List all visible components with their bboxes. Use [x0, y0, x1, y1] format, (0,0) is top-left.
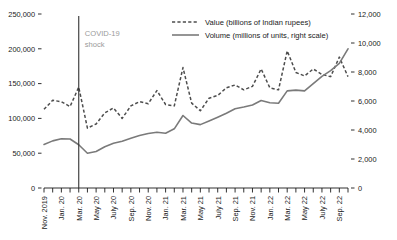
- chart-container: 050,000100,000150,000200,000250,00002,00…: [0, 0, 397, 240]
- x-axis-label-8: Mar. 21: [179, 196, 188, 221]
- x-axis-label-15: May 22: [300, 196, 309, 220]
- x-axis-label-6: Nov. 20: [144, 196, 153, 221]
- left-axis-tick-3: 150,000: [8, 79, 35, 88]
- x-axis-label-11: Sep. 21: [231, 196, 240, 221]
- x-axis-label-9: May 21: [196, 196, 205, 220]
- x-axis-label-5: Sep. 20: [127, 196, 136, 221]
- x-axis-label-1: Jan. 20: [57, 196, 66, 220]
- legend-label-1: Volume (millions of units, right scale): [205, 31, 329, 40]
- x-axis-label-3: May 20: [92, 196, 101, 220]
- right-axis-tick-0: 0: [358, 184, 362, 193]
- x-axis-label-13: Jan. 22: [266, 196, 275, 220]
- x-axis-label-14: Mar. 22: [283, 196, 292, 221]
- right-axis-tick-3: 6,000: [358, 97, 377, 106]
- series-line-volume: [44, 49, 348, 153]
- x-axis-label-12: Nov. 21: [248, 196, 257, 221]
- right-axis-tick-4: 8,000: [358, 68, 377, 77]
- left-axis-tick-1: 50,000: [12, 149, 35, 158]
- left-axis-tick-0: 0: [31, 184, 35, 193]
- dual-axis-line-chart: 050,000100,000150,000200,000250,00002,00…: [0, 0, 397, 240]
- legend-label-0: Value (billions of Indian rupees): [205, 18, 311, 27]
- left-axis-tick-5: 250,000: [8, 10, 35, 19]
- right-axis-tick-1: 2,000: [358, 155, 377, 164]
- left-axis-tick-4: 200,000: [8, 45, 35, 54]
- right-axis-tick-2: 4,000: [358, 126, 377, 135]
- right-axis-tick-6: 12,000: [358, 10, 381, 19]
- annotation-label-line2: shock: [85, 40, 105, 49]
- x-axis-label-10: July 21: [214, 196, 223, 219]
- x-axis-label-7: Jan. 21: [161, 196, 170, 220]
- x-axis-label-2: Mar. 20: [75, 196, 84, 221]
- series-line-value: [44, 51, 348, 128]
- x-axis-label-16: July 22: [318, 196, 327, 219]
- right-axis-tick-5: 10,000: [358, 39, 381, 48]
- x-axis-label-17: Sep. 22: [335, 196, 344, 221]
- left-axis-tick-2: 100,000: [8, 114, 35, 123]
- x-axis-label-0: Nov. 2019: [40, 196, 49, 229]
- x-axis-label-4: July 20: [109, 196, 118, 219]
- annotation-label-line1: COVID-19: [85, 29, 120, 38]
